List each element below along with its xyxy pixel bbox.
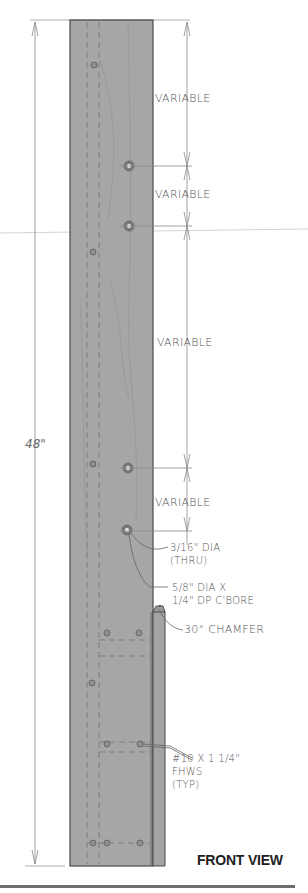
chamfer-callout: 30° CHAMFER [184,623,264,636]
overall-dimension-label: 48" [25,437,46,451]
counterbore-callout: 5/8" DIA X 1/4" DP C'BORE [172,581,254,607]
view-title: FRONT VIEW [197,852,283,868]
board [70,20,165,866]
drawing-svg [0,0,308,893]
front-view-drawing: VARIABLE VARIABLE VARIABLE VARIABLE 48" … [0,0,308,893]
dimension-label-variable-3: VARIABLE [157,336,212,349]
bottom-rule [0,885,295,888]
dimension-label-variable-2: VARIABLE [155,188,210,201]
dimension-label-variable-4: VARIABLE [155,496,210,509]
thru-hole-callout: 3/16" DIA (THRU) [170,541,220,567]
screw-callout: #10 X 1 1/4" FHWS (TYP) [172,752,240,791]
dimension-label-variable-1: VARIABLE [155,92,210,105]
